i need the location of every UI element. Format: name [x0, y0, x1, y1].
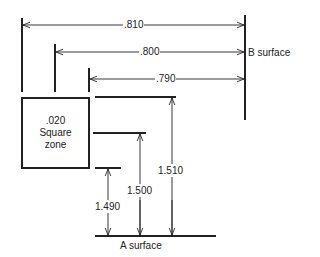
- dimension-label-790: .790: [155, 73, 176, 84]
- zone-word: zone: [45, 139, 67, 151]
- dimension-label-800: .800: [139, 46, 160, 57]
- square-zone-label: .020 Square zone: [22, 98, 89, 168]
- dimension-label-810: .810: [123, 19, 144, 30]
- zone-tolerance: .020: [46, 115, 65, 127]
- b-surface-label: B surface: [248, 47, 290, 58]
- dimension-label-1510: 1.510: [158, 164, 183, 177]
- dimension-label-1500: 1.500: [127, 184, 152, 197]
- a-surface-label: A surface: [120, 240, 162, 251]
- zone-shape: Square: [39, 127, 71, 139]
- dimension-label-1490: 1.490: [95, 200, 120, 213]
